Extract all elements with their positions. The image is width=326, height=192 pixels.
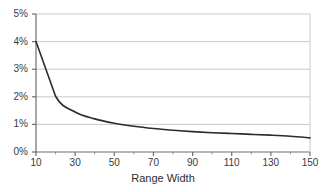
- y-tick-label: 0%: [2, 147, 28, 157]
- chart-container: 0%1%2%3%4%5% 1030507090110130150 Range W…: [0, 0, 326, 192]
- y-tick-label: 5%: [2, 9, 28, 19]
- y-tick-label: 3%: [2, 64, 28, 74]
- x-tick-label: 150: [295, 158, 325, 168]
- x-tick-label: 50: [99, 158, 129, 168]
- data-series-line: [36, 42, 310, 138]
- x-tick-label: 90: [178, 158, 208, 168]
- gridlines: [36, 14, 310, 124]
- y-tick-label: 1%: [2, 119, 28, 129]
- x-tick-label: 110: [217, 158, 247, 168]
- y-tick-label: 4%: [2, 37, 28, 47]
- x-tick-label: 130: [256, 158, 286, 168]
- x-axis-title: Range Width: [0, 172, 326, 184]
- y-tick-label: 2%: [2, 92, 28, 102]
- x-tick-label: 10: [21, 158, 51, 168]
- x-tick-label: 30: [60, 158, 90, 168]
- x-tick-label: 70: [138, 158, 168, 168]
